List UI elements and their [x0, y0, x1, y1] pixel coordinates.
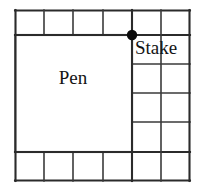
pen-label: Pen — [48, 68, 98, 87]
grid-cell-r5c5 — [132, 122, 161, 152]
grid-cell-r1c1 — [15, 10, 44, 35]
grid-cell-r1c5 — [132, 10, 161, 35]
grid-cell-r6c6 — [161, 152, 190, 181]
stake-label: Stake — [135, 38, 177, 57]
grid-cell-r1c3 — [73, 10, 103, 35]
grid-cell-r6c5 — [132, 152, 161, 181]
grid-cell-r5c6 — [161, 122, 190, 152]
grid-cell-r6c1 — [15, 152, 44, 181]
grid-cell-r1c6 — [161, 10, 190, 35]
grid-cell-r4c6 — [161, 93, 190, 122]
grid-cell-r6c3 — [73, 152, 103, 181]
grid-cell-r6c2 — [44, 152, 73, 181]
pen-region-outline — [16, 35, 133, 152]
grid-cell-r6c4 — [103, 152, 132, 181]
grid-cell-r3c6 — [161, 64, 190, 93]
grid-cell-r4c5 — [132, 93, 161, 122]
grid-svg — [0, 0, 208, 191]
grid-cell-r1c2 — [44, 10, 73, 35]
grid-cell-r3c5 — [132, 64, 161, 93]
pen-stake-diagram: Pen Stake — [0, 0, 208, 191]
grid-cell-r1c4 — [103, 10, 132, 35]
